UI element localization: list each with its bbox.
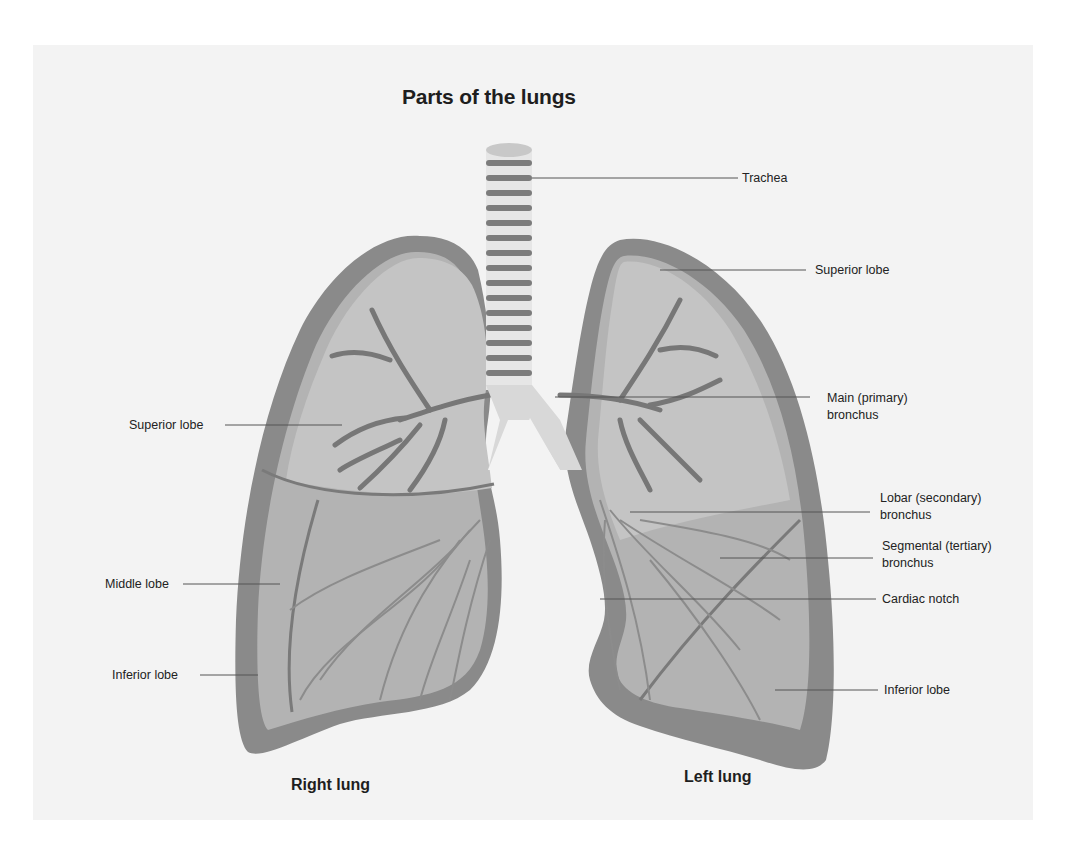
label-cardiac-notch: Cardiac notch <box>882 591 959 608</box>
label-trachea: Trachea <box>742 170 787 187</box>
label-right-lung: Right lung <box>291 776 370 794</box>
label-right-superior-lobe: Superior lobe <box>129 417 203 434</box>
label-lobar-bronchus: Lobar (secondary) bronchus <box>880 490 981 524</box>
label-left-lung: Left lung <box>684 768 752 786</box>
label-right-middle-lobe: Middle lobe <box>105 576 169 593</box>
label-right-inferior-lobe: Inferior lobe <box>112 667 178 684</box>
right-lung-shape <box>235 236 501 754</box>
label-segmental-bronchus: Segmental (tertiary) bronchus <box>882 538 992 572</box>
label-left-superior-lobe: Superior lobe <box>815 262 889 279</box>
diagram-title: Parts of the lungs <box>402 85 576 109</box>
label-main-bronchus: Main (primary) bronchus <box>827 390 908 424</box>
label-left-inferior-lobe: Inferior lobe <box>884 682 950 699</box>
